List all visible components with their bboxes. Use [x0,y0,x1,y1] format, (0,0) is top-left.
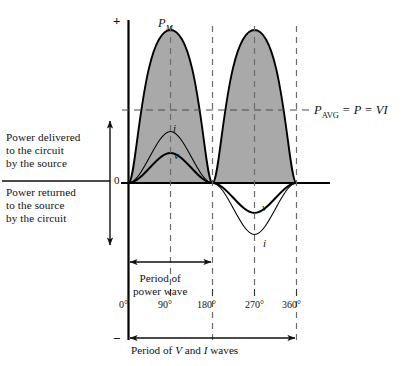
peak-power-label: PM [158,16,173,33]
average-power-symbol: P [314,103,322,117]
current-label-lower: i [263,237,266,250]
power-period-line1: Period of [133,272,187,285]
power-returned-line2: to the source [6,199,76,212]
current-label-upper: i [173,122,176,135]
vi-period-suffix: waves [207,344,238,356]
power-delivered-line3: by the source [6,157,81,170]
power-returned-note: Power returned to the source by the circ… [6,186,76,226]
x-tick-label-90: 90° [158,299,172,311]
y-axis-zero-label: 0 [114,174,120,187]
voltage-label-lower: v [262,201,267,214]
vi-period-conjunction: and [182,344,204,356]
power-period-caption: Period of power wave [133,272,187,298]
power-delivered-line2: to the circuit [6,144,81,157]
power-waveform-figure [0,0,408,366]
power-returned-line3: by the circuit [6,212,76,225]
power-delivered-line1: Power delivered [6,131,81,144]
power-period-line2: power wave [133,285,187,298]
y-axis-plus-sign: + [113,13,120,28]
vi-period-prefix: Period of [131,344,175,356]
power-delivered-note: Power delivered to the circuit by the so… [6,131,81,171]
vi-period-v-symbol: V [175,344,182,356]
voltage-label-upper: v [174,149,179,162]
x-tick-label-180: 180° [197,299,216,311]
peak-power-symbol: P [158,16,166,30]
power-returned-line1: Power returned [6,186,76,199]
vi-period-caption: Period of V and I waves [131,344,238,357]
average-power-subscript: AVG [322,110,339,120]
y-axis-minus-sign: − [113,331,120,346]
peak-power-subscript: M [166,23,173,33]
x-tick-label-360: 360° [282,299,301,311]
x-axis-ticks [171,289,297,296]
x-tick-label-270: 270° [245,299,264,311]
average-power-label: PAVG = P = VI [314,103,388,120]
average-power-equation: = P = VI [339,103,388,117]
x-tick-label-0: 0° [119,299,128,311]
